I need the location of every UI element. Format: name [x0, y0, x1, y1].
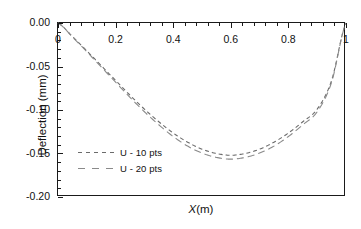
x-tick-minor: [334, 23, 335, 26]
y-tick-major: [58, 67, 63, 68]
y-tick-minor: [58, 127, 61, 128]
y-tick-minor: [58, 58, 61, 59]
y-tick-major: [58, 197, 63, 198]
y-tick-label: -0.20: [26, 190, 50, 202]
x-tick-minor: [104, 23, 105, 26]
x-tick-major: [346, 23, 347, 28]
y-tick-minor: [58, 93, 61, 94]
legend-item: U - 10 pts: [78, 144, 162, 160]
x-tick-minor: [93, 23, 94, 26]
x-tick-major: [288, 23, 289, 28]
y-axis-title: Deflection (mm): [36, 40, 48, 190]
x-tick-minor: [70, 23, 71, 26]
y-tick-minor: [58, 171, 61, 172]
y-tick-minor: [58, 188, 61, 189]
x-tick-label: 0.8: [281, 33, 296, 45]
x-tick-label: 0.2: [108, 33, 123, 45]
y-tick-major: [58, 110, 63, 111]
y-tick-minor: [58, 136, 61, 137]
legend-label-20pts: U - 20 pts: [120, 163, 162, 174]
y-tick-label: 0.00: [30, 16, 50, 28]
y-tick-minor: [58, 145, 61, 146]
x-tick-minor: [196, 23, 197, 26]
x-tick-minor: [219, 23, 220, 26]
x-tick-major: [231, 23, 232, 28]
x-tick-minor: [242, 23, 243, 26]
x-axis-title-unit: (m): [196, 203, 213, 215]
x-tick-major: [116, 23, 117, 28]
y-tick-minor: [58, 84, 61, 85]
legend-label-10pts: U - 10 pts: [120, 147, 162, 158]
x-axis-title: X(m): [57, 203, 345, 215]
x-tick-minor: [311, 23, 312, 26]
x-tick-minor: [254, 23, 255, 26]
x-tick-minor: [127, 23, 128, 26]
legend-line-swatch-20pts: [78, 168, 114, 169]
x-tick-minor: [162, 23, 163, 26]
x-tick-major: [173, 23, 174, 28]
x-tick-label: 0: [55, 33, 61, 45]
x-tick-minor: [185, 23, 186, 26]
x-tick-minor: [208, 23, 209, 26]
y-tick-minor: [58, 162, 61, 163]
y-tick-major: [58, 23, 63, 24]
y-tick-minor: [58, 75, 61, 76]
plot-area: 00.20.40.60.81 U - 10 pts U - 20 pts: [57, 22, 345, 196]
x-tick-minor: [277, 23, 278, 26]
x-tick-minor: [150, 23, 151, 26]
y-tick-minor: [58, 180, 61, 181]
legend-line-swatch-10pts: [78, 152, 114, 153]
x-tick-label: 0.6: [223, 33, 238, 45]
x-tick-label: 1: [343, 33, 349, 45]
y-tick-minor: [58, 101, 61, 102]
x-tick-minor: [81, 23, 82, 26]
series-line-u---20-pts: [58, 23, 346, 159]
series-line-u---10-pts: [58, 23, 346, 155]
legend-item: U - 20 pts: [78, 160, 162, 176]
chart-legend: U - 10 pts U - 20 pts: [78, 144, 162, 176]
y-tick-major: [58, 153, 63, 154]
x-tick-label: 0.4: [166, 33, 181, 45]
x-tick-minor: [323, 23, 324, 26]
x-tick-minor: [139, 23, 140, 26]
y-tick-minor: [58, 49, 61, 50]
x-tick-minor: [265, 23, 266, 26]
y-tick-minor: [58, 119, 61, 120]
x-tick-minor: [300, 23, 301, 26]
deflection-chart-figure: 0.00-0.05-0.10-0.15-0.20 Deflection (mm)…: [0, 0, 361, 229]
